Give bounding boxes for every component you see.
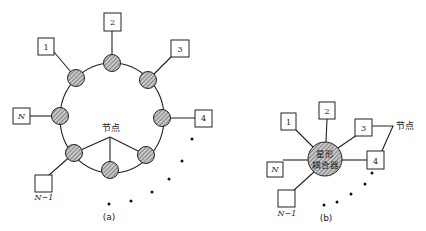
link-3: [338, 135, 357, 148]
ring-node: [102, 162, 119, 179]
station-label-4: 4: [201, 114, 206, 123]
ring-node: [138, 147, 155, 164]
station-label-3: 3: [361, 124, 366, 133]
coupler-label-line2: 耦合器: [312, 160, 339, 170]
ring-node: [154, 110, 171, 127]
ring-node: [104, 55, 121, 72]
link-1: [296, 130, 313, 147]
caption-a: (a): [103, 212, 116, 222]
node-label: 节点: [102, 123, 120, 133]
ring-node: [68, 70, 85, 87]
station-box-n-1: [35, 175, 52, 192]
ring-node: [52, 108, 69, 125]
network-topology-figure: 1 2 3 4 N N−1 节点 (a) 1 2: [0, 0, 426, 231]
ring-diagram: [30, 31, 195, 176]
node-label: 节点: [396, 121, 414, 131]
station-label-2: 2: [324, 107, 329, 116]
station-label-1: 1: [286, 118, 291, 127]
station-label-n: N: [271, 165, 280, 174]
station-label-n-1: N−1: [34, 193, 54, 202]
station-label-n-1: N−1: [277, 209, 297, 218]
link-n-1: [293, 172, 314, 191]
coupler-label-line1: 星形: [316, 149, 334, 159]
station-box-n-1: [278, 190, 295, 207]
link-2: [326, 119, 327, 142]
station-label-1: 1: [43, 43, 48, 52]
caption-b: (b): [320, 213, 333, 223]
continuation-dots: [323, 172, 374, 207]
station-label-n: N: [17, 112, 26, 121]
station-label-4: 4: [373, 157, 378, 166]
ring-node: [140, 72, 157, 89]
station-label-3: 3: [177, 45, 182, 54]
node-pointer-line: [372, 126, 393, 153]
ring-node: [66, 145, 83, 162]
station-label-2: 2: [110, 18, 115, 27]
star-coupler: [308, 142, 342, 176]
